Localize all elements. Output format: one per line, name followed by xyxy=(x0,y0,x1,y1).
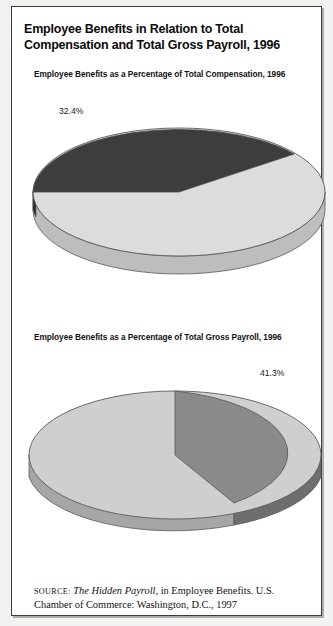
chart-2-subtitle: Employee Benefits as a Percentage of Tot… xyxy=(34,332,282,342)
source-label: SOURCE: xyxy=(34,587,71,596)
pie-1-data-label: 32.4% xyxy=(59,106,83,116)
chart-1-subtitle: Employee Benefits as a Percentage of Tot… xyxy=(34,69,285,79)
figure-panel: Employee Benefits in Relation to Total C… xyxy=(11,6,322,616)
source-note: SOURCE: The Hidden Payroll, in Employee … xyxy=(34,584,302,612)
page-title: Employee Benefits in Relation to Total C… xyxy=(24,21,309,53)
pie-chart-gross-payroll xyxy=(12,367,332,582)
figure-inner: Employee Benefits in Relation to Total C… xyxy=(12,7,321,615)
pie-2-data-label: 41.3% xyxy=(260,368,284,378)
pie-chart-1-svg xyxy=(16,107,332,287)
source-publication-title: The Hidden Payroll, xyxy=(73,585,158,596)
pie-chart-2-svg xyxy=(12,367,332,582)
pie-chart-total-compensation xyxy=(16,107,332,287)
